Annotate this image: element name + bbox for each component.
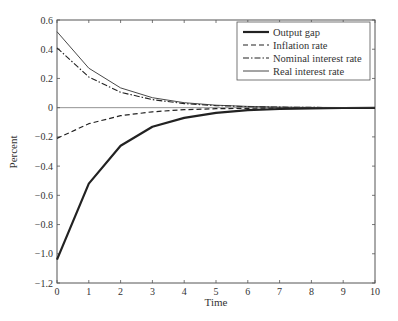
y-tick-label: 0.2 <box>41 73 54 84</box>
series-line-output-gap <box>57 108 375 260</box>
legend-label: Nominal interest rate <box>273 53 362 64</box>
y-tick-label: −0.2 <box>35 131 53 142</box>
y-tick-label: −1.0 <box>35 248 53 259</box>
legend-label: Real interest rate <box>273 66 344 77</box>
y-tick-label: −1.2 <box>35 278 53 289</box>
x-axis-label: Time <box>205 296 228 308</box>
x-tick-label: 1 <box>86 286 91 297</box>
y-axis-label: Percent <box>7 136 19 169</box>
y-tick-label: −0.4 <box>35 161 53 172</box>
x-tick-label: 4 <box>182 286 187 297</box>
x-tick-label: 0 <box>55 286 60 297</box>
x-tick-label: 10 <box>370 286 380 297</box>
y-tick-label: −0.8 <box>35 219 53 230</box>
x-tick-label: 2 <box>118 286 123 297</box>
x-tick-label: 3 <box>150 286 155 297</box>
y-tick-label: 0.6 <box>41 15 54 26</box>
y-tick-label: −0.6 <box>35 190 53 201</box>
x-tick-label: 9 <box>341 286 346 297</box>
legend-label: Inflation rate <box>273 40 328 51</box>
legend: Output gapInflation rateNominal interest… <box>237 22 370 80</box>
y-tick-label: 0 <box>48 102 53 113</box>
x-tick-label: 6 <box>245 286 250 297</box>
legend-label: Output gap <box>273 27 320 38</box>
chart-container: 0123456789100.60.40.20−0.2−0.4−0.6−0.8−1… <box>0 0 398 321</box>
x-tick-label: 7 <box>277 286 282 297</box>
y-tick-label: 0.4 <box>41 44 54 55</box>
x-tick-label: 8 <box>309 286 314 297</box>
line-chart: 0123456789100.60.40.20−0.2−0.4−0.6−0.8−1… <box>0 0 398 321</box>
